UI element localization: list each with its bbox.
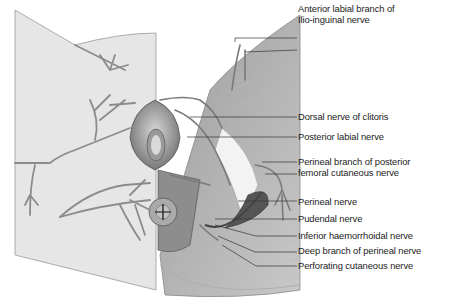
label-line: Anterior labial branch of xyxy=(298,3,395,14)
label-pudendal-nerve: Pudendal nerve xyxy=(298,213,362,224)
label-perineal-nerve: Perineal nerve xyxy=(298,196,357,207)
label-line: Inferior haemorrhoidal nerve xyxy=(298,230,413,241)
label-inferior-haemorrhoidal-nerve: Inferior haemorrhoidal nerve xyxy=(298,230,413,241)
label-deep-branch-perineal-nerve: Deep branch of perineal nerve xyxy=(298,245,421,256)
label-line: Posterior labial nerve xyxy=(298,131,384,142)
label-line: Dorsal nerve of clitoris xyxy=(298,111,388,122)
label-line: femoral cutaneous nerve xyxy=(298,167,410,178)
label-anterior-labial-nerve: Anterior labial branch of Ilio-inguinal … xyxy=(298,3,395,25)
label-line: Ilio-inguinal nerve xyxy=(298,14,395,25)
label-posterior-labial-nerve: Posterior labial nerve xyxy=(298,131,384,142)
label-perforating-cutaneous-nerve: Perforating cutaneous nerve xyxy=(298,260,413,271)
label-line: Perineal nerve xyxy=(298,196,357,207)
label-dorsal-nerve-of-clitoris: Dorsal nerve of clitoris xyxy=(298,111,388,122)
label-line: Deep branch of perineal nerve xyxy=(298,245,421,256)
label-line: Pudendal nerve xyxy=(298,213,362,224)
label-line: Perineal branch of posterior xyxy=(298,156,410,167)
label-line: Perforating cutaneous nerve xyxy=(298,260,413,271)
label-perineal-branch-posterior-femoral: Perineal branch of posterior femoral cut… xyxy=(298,156,410,178)
